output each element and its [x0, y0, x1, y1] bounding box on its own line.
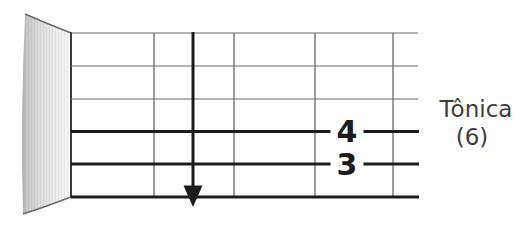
string-5-number: 3 [337, 147, 358, 182]
thin-strings [71, 33, 418, 99]
fretboard-svg: 4 3 Tônica (6) [0, 0, 532, 226]
nut-texture [22, 14, 71, 214]
tonic-label-title: Tônica [439, 96, 513, 122]
guitar-diagram: 4 3 Tônica (6) [0, 0, 532, 226]
tonic-string-number: (6) [456, 124, 489, 150]
thick-strings [71, 132, 419, 198]
nut-graphic [22, 14, 71, 214]
downstroke-arrow [184, 32, 203, 207]
tonic-label: Tônica (6) [439, 96, 513, 150]
string-4-number: 4 [337, 114, 358, 149]
